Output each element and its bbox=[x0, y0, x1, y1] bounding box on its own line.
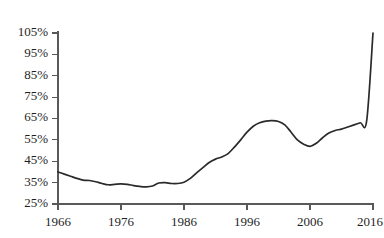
data-series-line bbox=[58, 33, 373, 187]
y-tick-label-75: 75% bbox=[24, 88, 48, 103]
x-tick-label-1986: 1986 bbox=[171, 214, 198, 229]
y-tick-label-35: 35% bbox=[24, 174, 48, 189]
x-axis-ticks bbox=[58, 204, 373, 210]
y-tick-label-25: 25% bbox=[24, 195, 48, 210]
x-tick-label-1996: 1996 bbox=[234, 214, 261, 229]
x-tick-label-1966: 1966 bbox=[45, 214, 72, 229]
x-tick-label-2016: 2016 bbox=[357, 214, 384, 229]
y-tick-label-55: 55% bbox=[24, 131, 48, 146]
line-chart-plot: 105% 95% 85% 75% 65% 55% 45% 35% 25% 196… bbox=[0, 0, 384, 238]
x-axis-tick-labels: 1966 1976 1986 1996 2006 2016 bbox=[45, 214, 384, 229]
x-tick-label-2006: 2006 bbox=[297, 214, 324, 229]
y-tick-label-85: 85% bbox=[24, 67, 48, 82]
chart-figure: (…in 2016) 105% 95% 85% 75% 65% 55% 45% bbox=[0, 0, 384, 238]
y-axis-ticks bbox=[52, 33, 58, 204]
y-tick-label-95: 95% bbox=[24, 45, 48, 60]
x-tick-label-1976: 1976 bbox=[108, 214, 135, 229]
y-axis-tick-labels: 105% 95% 85% 75% 65% 55% 45% 35% 25% bbox=[18, 24, 49, 210]
y-tick-label-105: 105% bbox=[18, 24, 49, 39]
y-tick-label-65: 65% bbox=[24, 109, 48, 124]
y-tick-label-45: 45% bbox=[24, 152, 48, 167]
